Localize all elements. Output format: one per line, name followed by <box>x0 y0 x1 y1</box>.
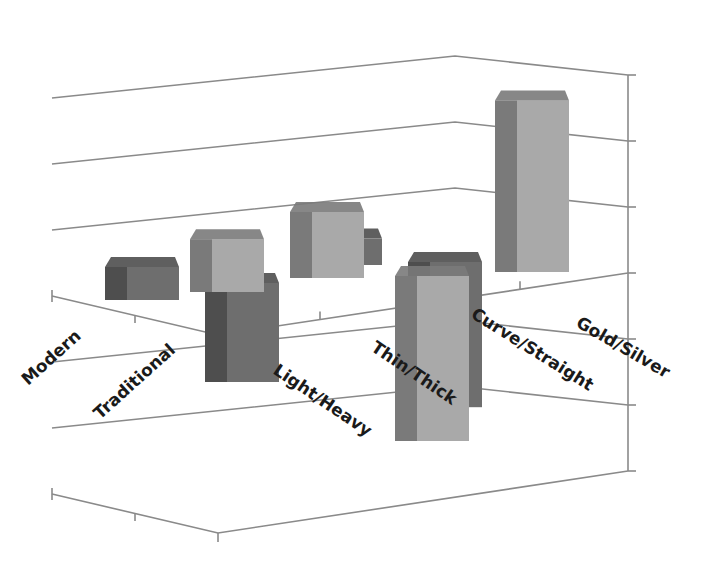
bar-Thin/Thick-front <box>395 266 469 441</box>
category-label: Light/Heavy <box>270 360 376 441</box>
category-axis-labels: ModernTraditionalLight/HeavyThin/ThickCu… <box>17 303 674 440</box>
category-label: Curve/Straight <box>468 303 598 394</box>
bar-Gold/Silver-front <box>495 90 569 272</box>
3d-column-chart: ModernTraditionalLight/HeavyThin/ThickCu… <box>0 0 715 568</box>
bar-Traditional-front <box>190 229 264 292</box>
bar-Light/Heavy-front <box>290 202 364 278</box>
bar-Modern-back <box>105 257 179 300</box>
category-label: Modern <box>17 325 84 389</box>
category-label: Traditional <box>89 339 179 423</box>
